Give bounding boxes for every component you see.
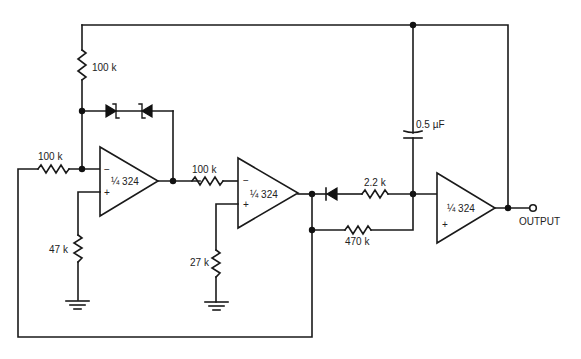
resistor-2k2-label: 2.2 k <box>364 177 387 188</box>
opamp1-plus: + <box>104 187 110 198</box>
resistor-top-label: 100 k <box>92 62 117 73</box>
capacitor-c1: 0.5 µF <box>404 25 445 194</box>
resistor-27k-label: 27 k <box>190 257 210 268</box>
opamp-1: − + ¼ 324 <box>100 147 200 216</box>
resistor-in-label: 100 k <box>38 151 63 162</box>
resistor-top-100k: 100 k <box>78 25 117 169</box>
junction-dot <box>79 108 85 114</box>
diode-d1 <box>326 188 362 200</box>
ground-icon <box>66 301 89 309</box>
junction-dot <box>79 166 85 172</box>
opamp1-minus: − <box>104 164 110 175</box>
output-terminal-icon <box>530 205 537 212</box>
diode-icon <box>326 188 337 200</box>
opamp1-label: ¼ 324 <box>111 176 139 187</box>
resistor-mid-label: 100 k <box>192 164 217 175</box>
opamp3-label: ¼ 324 <box>447 203 475 214</box>
zener-diode-icon <box>139 104 152 118</box>
resistor-2k2: 2.2 k <box>362 177 437 198</box>
resistor-47k-label: 47 k <box>49 244 69 255</box>
zener-diode-icon <box>106 104 119 118</box>
junction-dot <box>505 205 511 211</box>
junction-dot <box>410 22 416 28</box>
output-label: OUTPUT <box>519 216 560 227</box>
capacitor-label: 0.5 µF <box>416 119 445 130</box>
resistor-47k: 47 k <box>49 192 100 300</box>
opamp2-minus: − <box>243 175 249 186</box>
resistor-27k: 27 k <box>190 204 238 302</box>
opamp3-plus: + <box>442 219 448 230</box>
opamp2-plus: + <box>243 199 249 210</box>
resistor-470k-label: 470 k <box>345 236 370 247</box>
ground-icon <box>205 302 228 310</box>
junction-dot <box>170 178 176 184</box>
resistor-470k: 470 k <box>312 194 413 247</box>
opamp2-label: ¼ 324 <box>250 189 278 200</box>
circuit-schematic: 100 k 100 k − + ¼ 324 4 <box>0 0 581 359</box>
opamp-3: + ¼ 324 <box>437 173 530 243</box>
resistor-mid-100k: 100 k <box>192 164 238 185</box>
junction-dot <box>309 227 315 233</box>
